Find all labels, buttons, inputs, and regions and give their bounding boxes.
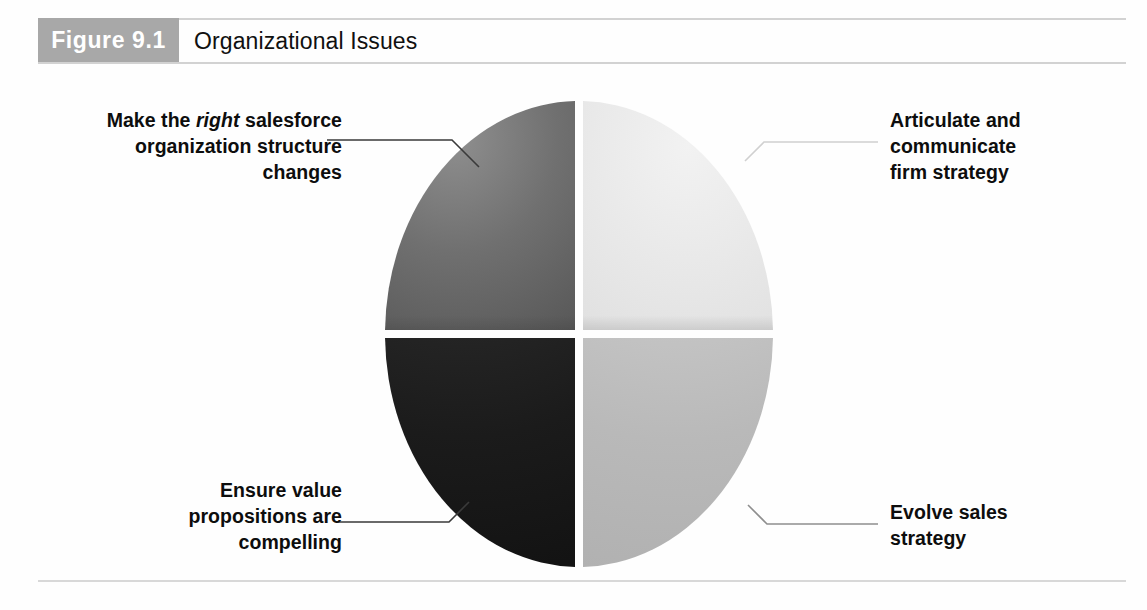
- figure-number-badge: Figure 9.1: [38, 18, 179, 64]
- pie-slice-fill: [583, 338, 773, 567]
- pie-slice-firm-strategy[interactable]: [583, 101, 773, 330]
- pie-slice-organization-structure[interactable]: [385, 101, 575, 330]
- callout-line-1: Articulate and: [890, 109, 1021, 131]
- pie-slice-sales-strategy[interactable]: [583, 338, 773, 567]
- callout-label-sales-strategy: Evolve sales strategy: [890, 500, 1140, 552]
- callout-line-1-emphasis: right: [196, 109, 240, 131]
- callout-label-firm-strategy: Articulate and communicate firm strategy: [890, 108, 1140, 186]
- callout-line-2: strategy: [890, 527, 966, 549]
- figure-caption-title: Organizational Issues: [194, 18, 417, 66]
- callout-line-2: organization structure: [135, 135, 342, 157]
- callout-label-value-propositions: Ensure value propositions are compelling: [90, 478, 342, 556]
- pie-slice-value-propositions[interactable]: [385, 338, 575, 567]
- figure-footer-rule: [38, 580, 1126, 582]
- pie-slice-fill: [385, 338, 575, 567]
- callout-line-1-after: salesforce: [240, 109, 342, 131]
- pie-chart: [385, 101, 773, 567]
- callout-line-3: compelling: [239, 531, 342, 553]
- callout-label-organization-structure: Make the right salesforce organization s…: [30, 108, 342, 186]
- callout-line-2: communicate: [890, 135, 1016, 157]
- callout-line-1: Evolve sales: [890, 501, 1008, 523]
- callout-line-3: firm strategy: [890, 161, 1009, 183]
- header-rule-bottom: [38, 62, 1126, 64]
- pie-slice-fill: [385, 101, 575, 330]
- callout-line-3: changes: [263, 161, 342, 183]
- figure-page: Figure 9.1 Organizational Issues Make th…: [0, 0, 1147, 610]
- callout-line-2: propositions are: [188, 505, 342, 527]
- callout-line-1-before: Make the: [107, 109, 196, 131]
- callout-line-1: Ensure value: [220, 479, 342, 501]
- pie-slice-fill: [583, 101, 773, 330]
- figure-header: Figure 9.1 Organizational Issues: [0, 18, 1147, 64]
